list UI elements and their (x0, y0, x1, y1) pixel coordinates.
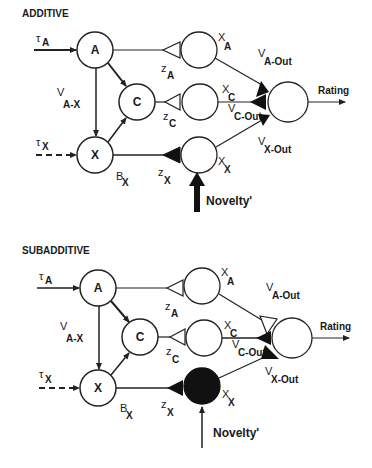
svg-text:V: V (57, 86, 65, 98)
label-z-a: z A (161, 62, 174, 81)
node-a: A (77, 32, 113, 68)
svg-text:z: z (165, 300, 171, 312)
synapse-z-c-icon (165, 94, 180, 110)
label-x-x: X X (222, 388, 235, 408)
svg-text:z: z (158, 166, 164, 178)
synapse-v-cout-icon (250, 94, 266, 110)
svg-text:C: C (169, 118, 176, 129)
svg-text:A: A (171, 308, 178, 319)
svg-text:A: A (91, 43, 100, 57)
svg-text:C-Out: C-Out (234, 111, 262, 122)
svg-text:A: A (227, 276, 234, 287)
svg-text:X-Out: X-Out (264, 144, 292, 155)
novelty-input-arrow: Novelty' (202, 407, 259, 448)
output-unit (272, 318, 312, 358)
label-v-aout: V A-Out (258, 47, 292, 67)
panel-additive: ADDITIVE τ A τ X A C X (22, 8, 349, 212)
svg-text:X-Out: X-Out (271, 374, 299, 385)
output-label: Rating (318, 85, 349, 96)
panel-title: ADDITIVE (22, 8, 69, 19)
label-v-ax: V A-X (60, 320, 84, 344)
label-z-a: z A (165, 300, 178, 319)
node-x: X (80, 370, 116, 406)
svg-text:X: X (167, 407, 174, 418)
svg-text:X: X (91, 148, 99, 162)
svg-text:A: A (94, 281, 103, 295)
svg-text:X: X (122, 177, 129, 188)
diagram-canvas: ADDITIVE τ A τ X A C X (0, 0, 372, 468)
synapse-z-a-icon (163, 42, 180, 58)
svg-text:A: A (167, 70, 174, 81)
synapse-z-x-icon (167, 380, 183, 396)
label-x-a: X A (221, 266, 234, 287)
panel-title: SUBADDITIVE (22, 245, 90, 256)
svg-text:τ: τ (36, 136, 41, 148)
input-tau-x: τ X (36, 136, 76, 155)
panel-subadditive: SUBADDITIVE τ A τ X A C X V A-X (22, 245, 351, 448)
svg-text:Novelty': Novelty' (206, 194, 252, 208)
label-z-c: z C (166, 345, 179, 365)
node-c: C (122, 319, 158, 355)
svg-text:A-Out: A-Out (264, 56, 292, 67)
svg-text:τ: τ (39, 270, 44, 282)
unit-x-x-active (184, 368, 220, 404)
edge-a-c (108, 63, 126, 86)
node-x: X (77, 137, 113, 173)
label-v-xout: V X-Out (265, 365, 299, 385)
svg-text:C: C (172, 354, 179, 365)
synapse-v-cout-icon (256, 331, 271, 345)
label-b-x: B X (120, 402, 133, 421)
svg-text:z: z (161, 62, 167, 74)
svg-text:A-X: A-X (63, 99, 81, 110)
svg-text:A: A (45, 275, 52, 286)
label-v-xout: V X-Out (258, 135, 292, 155)
input-tau-a: τ A (37, 270, 79, 288)
synapse-z-x-icon (163, 147, 180, 163)
svg-text:X: X (228, 397, 235, 408)
svg-text:C: C (133, 95, 142, 109)
svg-text:τ: τ (36, 32, 41, 44)
label-v-ax: V A-X (57, 86, 81, 110)
label-b-x: B X (116, 170, 129, 188)
label-z-c: z C (163, 110, 176, 129)
svg-text:τ: τ (39, 368, 44, 380)
synapse-z-c-icon (170, 329, 185, 345)
svg-text:Novelty': Novelty' (213, 426, 259, 440)
label-x-c: X C (222, 83, 235, 103)
label-x-x: X X (218, 155, 231, 175)
svg-text:z: z (161, 398, 167, 410)
unit-x-c (186, 320, 222, 356)
label-x-a: X A (218, 31, 231, 52)
unit-x-c (182, 84, 218, 120)
label-z-x: z X (161, 398, 174, 418)
svg-text:C: C (136, 330, 145, 344)
output-unit (268, 82, 308, 122)
label-v-cout: V C-Out (232, 338, 266, 358)
svg-text:z: z (166, 345, 172, 357)
node-c: C (119, 84, 155, 120)
synapse-z-a-icon (167, 280, 183, 296)
svg-text:X: X (126, 410, 133, 421)
svg-text:V: V (60, 320, 68, 332)
unit-x-a (184, 268, 220, 304)
edge-a-c (111, 301, 129, 322)
svg-text:A-Out: A-Out (272, 290, 300, 301)
svg-text:X: X (45, 374, 52, 385)
label-v-aout: V A-Out (266, 281, 300, 301)
unit-x-x (181, 137, 217, 173)
svg-text:X: X (164, 175, 171, 186)
label-x-c: X C (224, 319, 237, 339)
edge-x-c (108, 118, 126, 142)
novelty-input-arrow: Novelty' (189, 172, 252, 212)
label-z-x: z X (158, 166, 171, 186)
synapse-v-aout-icon (256, 81, 269, 97)
edge-x-c (111, 353, 129, 375)
svg-text:A: A (224, 41, 231, 52)
input-tau-a: τ A (34, 32, 76, 50)
svg-text:z: z (163, 110, 169, 122)
svg-text:X: X (94, 381, 102, 395)
svg-text:A-X: A-X (66, 333, 84, 344)
node-a: A (80, 270, 116, 306)
svg-text:X: X (42, 141, 49, 152)
input-tau-x: τ X (39, 368, 79, 388)
